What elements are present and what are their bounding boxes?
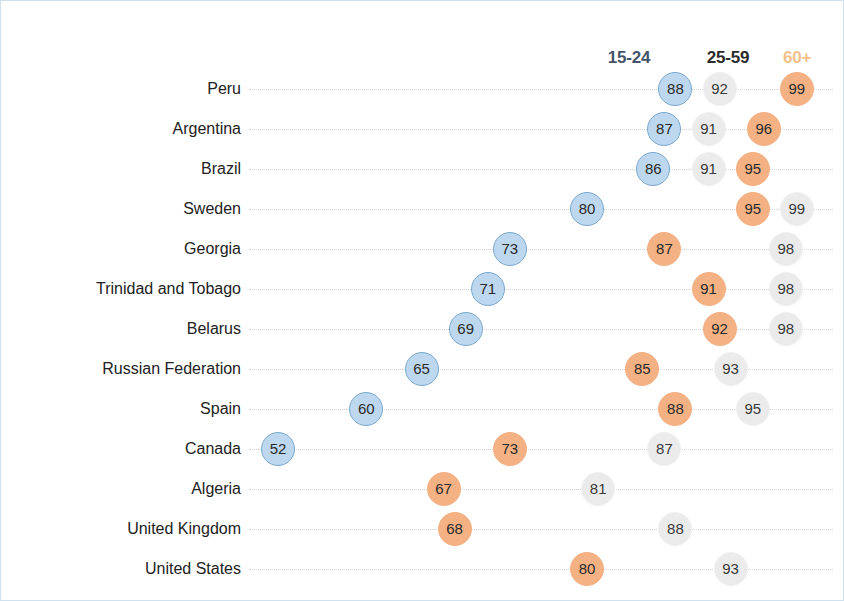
data-point-gray[interactable]: 98 <box>769 272 803 306</box>
chart-row: Brazil869195 <box>1 149 844 189</box>
data-point-orange[interactable]: 91 <box>692 272 726 306</box>
data-point-orange[interactable]: 92 <box>703 312 737 346</box>
row-label-argentina: Argentina <box>173 109 242 149</box>
data-point-gray[interactable]: 92 <box>703 72 737 106</box>
data-point-gray[interactable]: 99 <box>780 192 814 226</box>
gridline <box>249 289 833 290</box>
data-point-orange[interactable]: 96 <box>747 112 781 146</box>
data-point-orange[interactable]: 99 <box>780 72 814 106</box>
chart-row: Belarus699892 <box>1 309 844 349</box>
data-point-blue[interactable]: 73 <box>493 232 527 266</box>
chart-row: Spain609588 <box>1 389 844 429</box>
data-point-gray[interactable]: 91 <box>692 112 726 146</box>
gridline <box>249 249 833 250</box>
row-label-algeria: Algeria <box>191 469 241 509</box>
chart-row: Georgia739887 <box>1 229 844 269</box>
chart-row: United Kingdom8868 <box>1 509 844 549</box>
data-point-gray[interactable]: 81 <box>581 472 615 506</box>
data-point-blue[interactable]: 71 <box>471 272 505 306</box>
data-point-orange[interactable]: 80 <box>570 552 604 586</box>
data-point-orange[interactable]: 73 <box>493 432 527 466</box>
chart-row: Trinidad and Tobago719891 <box>1 269 844 309</box>
row-label-spain: Spain <box>200 389 241 429</box>
row-label-brazil: Brazil <box>201 149 241 189</box>
data-point-blue[interactable]: 88 <box>658 72 692 106</box>
chart-row: Canada528773 <box>1 429 844 469</box>
data-point-orange[interactable]: 85 <box>625 352 659 386</box>
gridline <box>249 449 833 450</box>
data-point-orange[interactable]: 68 <box>438 512 472 546</box>
row-label-sweden: Sweden <box>183 189 241 229</box>
data-point-orange[interactable]: 95 <box>736 192 770 226</box>
data-point-gray[interactable]: 91 <box>692 152 726 186</box>
gridline <box>249 89 833 90</box>
row-label-peru: Peru <box>207 69 241 109</box>
gridline <box>249 529 833 530</box>
row-label-russian-federation: Russian Federation <box>102 349 241 389</box>
data-point-gray[interactable]: 87 <box>647 432 681 466</box>
data-point-blue[interactable]: 52 <box>261 432 295 466</box>
row-label-united-states: United States <box>145 549 241 589</box>
row-label-united-kingdom: United Kingdom <box>127 509 241 549</box>
row-label-canada: Canada <box>185 429 241 469</box>
gridline <box>249 329 833 330</box>
data-point-gray[interactable]: 93 <box>714 352 748 386</box>
plot-area: Peru889299Argentina879196Brazil869195Swe… <box>1 1 844 601</box>
gridline <box>249 489 833 490</box>
gridline <box>249 129 833 130</box>
data-point-blue[interactable]: 69 <box>449 312 483 346</box>
chart-row: Argentina879196 <box>1 109 844 149</box>
data-point-orange[interactable]: 88 <box>658 392 692 426</box>
data-point-gray[interactable]: 93 <box>714 552 748 586</box>
data-point-gray[interactable]: 98 <box>769 232 803 266</box>
data-point-gray[interactable]: 95 <box>736 392 770 426</box>
dot-plot-chart: 15-2425-5960+ Peru889299Argentina879196B… <box>0 0 844 601</box>
data-point-blue[interactable]: 87 <box>647 112 681 146</box>
data-point-blue[interactable]: 80 <box>570 192 604 226</box>
data-point-gray[interactable]: 88 <box>658 512 692 546</box>
data-point-blue[interactable]: 65 <box>405 352 439 386</box>
row-label-georgia: Georgia <box>184 229 241 269</box>
chart-row: Peru889299 <box>1 69 844 109</box>
row-label-belarus: Belarus <box>187 309 241 349</box>
chart-row: United States9380 <box>1 549 844 589</box>
data-point-blue[interactable]: 86 <box>636 152 670 186</box>
chart-row: Algeria8167 <box>1 469 844 509</box>
data-point-orange[interactable]: 95 <box>736 152 770 186</box>
chart-row: Sweden809995 <box>1 189 844 229</box>
row-label-trinidad-and-tobago: Trinidad and Tobago <box>96 269 241 309</box>
data-point-orange[interactable]: 67 <box>427 472 461 506</box>
chart-row: Russian Federation659385 <box>1 349 844 389</box>
data-point-blue[interactable]: 60 <box>349 392 383 426</box>
data-point-gray[interactable]: 98 <box>769 312 803 346</box>
data-point-orange[interactable]: 87 <box>647 232 681 266</box>
